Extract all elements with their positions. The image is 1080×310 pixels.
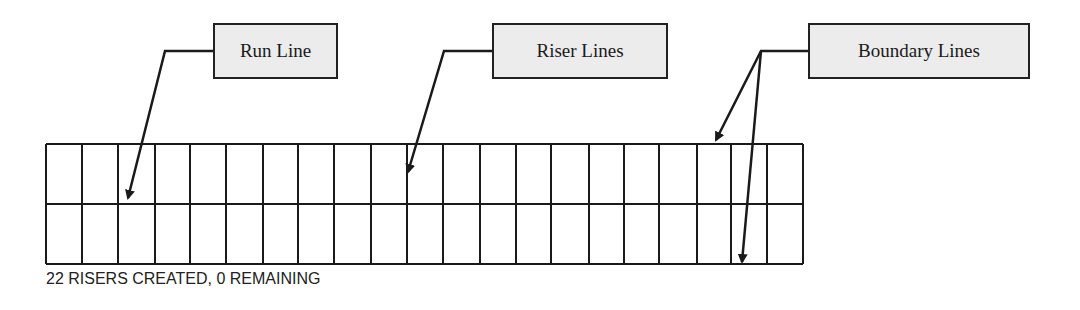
status-message: 22 RISERS CREATED, 0 REMAINING [46,270,320,288]
run-line-label: Run Line [213,23,338,79]
stair-grid [46,144,803,264]
boundary-lines-label: Boundary Lines [808,23,1030,79]
boundary-lines-leader-a-arrow [716,51,808,140]
leader-arrows [128,51,808,262]
riser-lines-label: Riser Lines [492,23,668,79]
run-line-leader-arrow [128,51,213,198]
boundary-lines-label-text: Boundary Lines [858,40,980,62]
riser-lines-label-text: Riser Lines [536,40,623,62]
run-line-label-text: Run Line [240,40,311,62]
